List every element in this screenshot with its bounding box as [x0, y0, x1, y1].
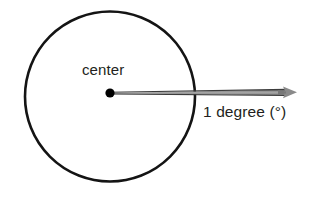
center-label: center	[82, 62, 124, 77]
angle-diagram-figure: center 1 degree (°)	[0, 0, 325, 197]
angle-measure-label: 1 degree (°)	[203, 104, 286, 120]
center-dot	[105, 88, 114, 97]
angle-diagram-canvas	[0, 0, 325, 197]
